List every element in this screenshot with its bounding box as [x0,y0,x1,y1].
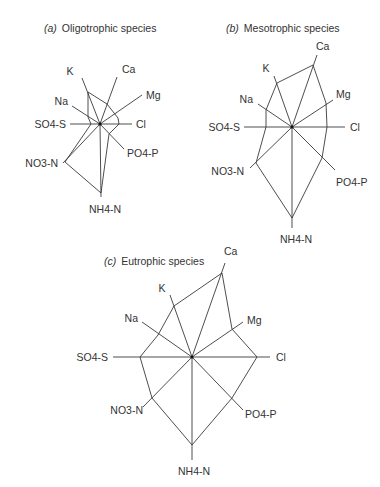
axis-ca [192,263,225,357]
axis-na [258,104,292,127]
axis-label-mg: Mg [146,89,161,101]
profile-polygon [140,273,257,445]
panel-mesotrophic: (b)Mesotrophic speciesCaKNaMgSO4-SClNO3-… [208,22,367,245]
panel-title: (a)Oligotrophic species [44,22,156,34]
axis-label-k: K [66,65,73,77]
radar-figure: (a)Oligotrophic speciesKCaMgClPO4-PNH4-N… [0,0,380,487]
axis-label-no3-n: NO3-N [110,404,143,416]
axis-nh4-n [100,124,101,197]
axis-mg [192,322,243,357]
axis-na [142,322,192,357]
axis-label-po4-p: PO4-P [127,147,159,159]
panel-title: (c)Eutrophic species [104,255,204,267]
panel-oligotrophic: (a)Oligotrophic speciesKCaMgClPO4-PNH4-N… [25,22,160,215]
axis-label-cl: Cl [350,121,360,133]
axis-k [170,295,192,357]
axis-label-no3-n: NO3-N [25,157,58,169]
axis-label-nh4-n: NH4-N [178,465,210,477]
center-point [98,122,101,125]
axis-ca [100,77,117,124]
axis-label-so4-s: SO4-S [34,118,66,130]
center-point [290,125,293,128]
axis-label-mg: Mg [247,314,262,326]
axis-label-k: K [158,282,165,294]
panel-title: (b)Mesotrophic species [226,22,340,34]
axis-label-po4-p: PO4-P [245,408,277,420]
axis-label-po4-p: PO4-P [336,176,368,188]
axis-label-so4-s: SO4-S [76,351,108,363]
axis-po4-p [192,357,243,410]
axis-label-cl: Cl [136,118,146,130]
axis-label-so4-s: SO4-S [208,121,240,133]
center-point [190,355,193,358]
axis-label-na: Na [240,93,254,105]
axis-label-k: K [262,62,269,74]
axis-label-nh4-n: NH4-N [280,233,312,245]
axis-label-na: Na [125,312,139,324]
axis-label-ca: Ca [224,245,238,257]
axis-no3-n [143,357,192,407]
axis-label-mg: Mg [336,88,351,100]
panel-eutrophic: (c)Eutrophic speciesCaKNaMgSO4-SClNO3-NP… [76,245,285,477]
axis-label-cl: Cl [276,351,286,363]
axis-label-nh4-n: NH4-N [89,203,121,215]
axis-label-ca: Ca [122,63,136,75]
axis-label-na: Na [55,95,69,107]
axis-na [72,106,100,124]
axis-label-no3-n: NO3-N [211,165,244,177]
profile-polygon [256,65,327,218]
axis-label-ca: Ca [316,40,330,52]
axis-po4-p [100,124,124,149]
axis-k [82,78,100,124]
axis-po4-p [292,127,335,170]
